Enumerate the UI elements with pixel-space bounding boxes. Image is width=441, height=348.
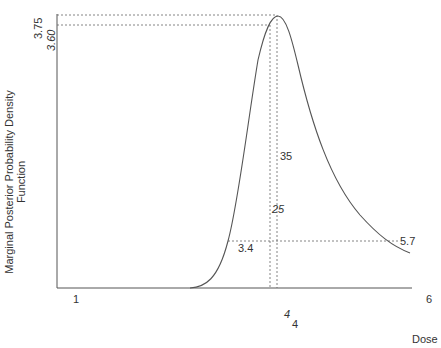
annotation-3-4: 3.4: [238, 242, 253, 254]
annotation-35: 35: [280, 150, 292, 162]
y-tick-360: 3.60: [45, 30, 57, 51]
density-curve: [190, 16, 410, 288]
x-axis-label: Dose: [412, 333, 438, 345]
annotation-5-7: 5.7: [400, 235, 415, 247]
y-tick-375: 3.75: [32, 18, 44, 39]
x-peak-label-italic: 4: [284, 308, 290, 320]
x-tick-1: 1: [73, 293, 79, 305]
x-tick-6: 6: [426, 293, 432, 305]
y-axis-label: Marginal Posterior Probability Density F…: [3, 87, 27, 277]
x-peak-label: 4: [292, 318, 298, 330]
chart-canvas: [0, 0, 441, 348]
annotation-25: 25: [272, 203, 284, 215]
